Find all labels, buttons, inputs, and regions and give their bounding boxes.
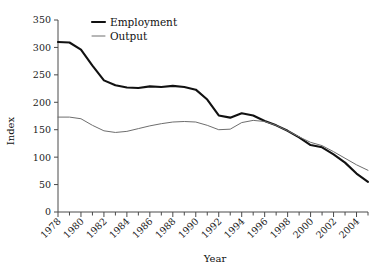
y-axis: 050100150200250300350 — [33, 14, 58, 217]
y-tick-label: 350 — [33, 14, 51, 25]
x-tick-label: 1986 — [130, 216, 155, 241]
x-tick-label: 1996 — [245, 216, 270, 241]
y-axis-title: Index — [5, 116, 16, 145]
y-tick-label: 0 — [45, 206, 51, 217]
x-axis-title: Year — [203, 253, 227, 264]
x-axis: 1978198019821984198619881990199219941996… — [38, 212, 368, 241]
x-tick-label: 2002 — [314, 216, 339, 241]
x-tick-label: 1980 — [61, 216, 86, 241]
chart-legend: EmploymentOutput — [92, 16, 178, 42]
chart-figure: 050100150200250300350 197819801982198419… — [0, 0, 386, 271]
y-tick-label: 150 — [33, 124, 51, 135]
legend-label-output: Output — [110, 30, 148, 42]
data-series-group — [58, 42, 368, 182]
x-tick-label: 1982 — [84, 216, 109, 241]
x-tick-label: 2004 — [337, 216, 362, 241]
x-tick-label: 1988 — [153, 216, 178, 241]
line-chart-canvas: 050100150200250300350 197819801982198419… — [0, 0, 386, 271]
x-tick-label: 1984 — [107, 216, 132, 241]
x-tick-label: 1998 — [268, 216, 293, 241]
series-line-output — [58, 117, 368, 170]
legend-label-employment: Employment — [110, 16, 178, 28]
x-tick-label: 1978 — [38, 216, 63, 241]
x-tick-label: 2000 — [291, 216, 316, 241]
y-tick-label: 50 — [39, 179, 51, 190]
x-tick-label: 1990 — [176, 216, 201, 241]
series-line-employment — [58, 42, 368, 182]
x-tick-label: 1994 — [222, 216, 247, 241]
y-tick-label: 100 — [33, 152, 51, 163]
y-tick-label: 250 — [33, 69, 51, 80]
y-tick-label: 300 — [33, 42, 51, 53]
y-tick-label: 200 — [33, 97, 51, 108]
x-tick-label: 1992 — [199, 216, 224, 241]
